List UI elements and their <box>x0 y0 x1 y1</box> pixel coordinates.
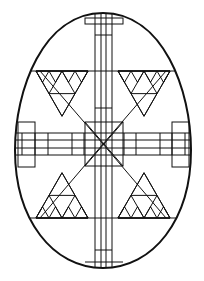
side-box-left <box>18 122 35 167</box>
triangle-small <box>62 207 75 218</box>
triangle-small <box>75 71 88 82</box>
triangle-small <box>118 71 131 82</box>
egg-pattern <box>0 0 204 281</box>
triangle-medium <box>118 71 144 94</box>
triangle-small <box>131 207 144 218</box>
triangle-small <box>36 71 49 82</box>
egg-drawing <box>0 0 204 281</box>
triangle-small <box>157 71 170 82</box>
triangle-small <box>157 207 170 218</box>
triangle-medium <box>62 195 88 218</box>
triangle-small <box>144 207 157 218</box>
triangle-small <box>49 71 62 82</box>
top-cap <box>85 18 123 24</box>
triangle-small <box>62 71 75 82</box>
triangle-small <box>75 207 88 218</box>
triangle-small <box>144 71 157 82</box>
triangle-small <box>36 207 49 218</box>
triangle-medium <box>36 71 62 94</box>
triangle-medium <box>62 71 88 94</box>
triangle-small <box>49 207 62 218</box>
triangle-small <box>118 207 131 218</box>
triangle-small <box>131 71 144 82</box>
triangle-medium <box>118 195 144 218</box>
triangle-medium <box>144 71 170 94</box>
side-box-right <box>172 122 189 167</box>
